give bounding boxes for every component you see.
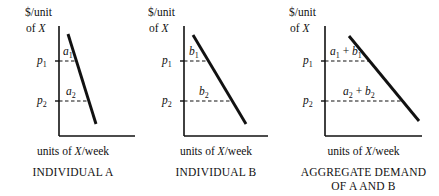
demand-curve-figure: $/unit of X p1 p2 a1 xyxy=(0,0,439,196)
panel-individual-a: $/unit of X p1 p2 a1 xyxy=(0,0,146,196)
quantity-label-a2: a2 xyxy=(66,85,76,100)
price-label-p2: p2 xyxy=(37,94,47,109)
price-label-p1: p1 xyxy=(37,54,47,69)
x-axis-label: units of X/week xyxy=(143,145,289,157)
panel-caption-line-2: OF A AND B xyxy=(288,180,439,194)
quantity-label-a1-plus-b1: a1 + b1 xyxy=(330,45,362,60)
panel-aggregate-demand: $/unit of X p1 p2 a1 + b1 a2 + b2 units … xyxy=(288,0,439,196)
panel-caption-individual-a: INDIVIDUAL A xyxy=(0,166,146,180)
price-label-p1: p1 xyxy=(303,54,313,69)
x-axis-label: units of X/week xyxy=(0,145,146,157)
panel-caption-line-1: AGGREGATE DEMAND xyxy=(288,166,439,180)
quantity-label-b1: b1 xyxy=(189,45,199,60)
price-label-p2: p2 xyxy=(162,94,172,109)
quantity-label-a1: a1 xyxy=(63,45,73,60)
x-axis-label: units of X/week xyxy=(288,145,439,157)
quantity-label-b2: b2 xyxy=(199,85,209,100)
panel-caption-individual-b: INDIVIDUAL B xyxy=(143,166,289,180)
demand-curve-b xyxy=(193,35,246,124)
price-label-p2: p2 xyxy=(303,94,313,109)
quantity-label-a2-plus-b2: a2 + b2 xyxy=(343,85,375,100)
price-label-p1: p1 xyxy=(162,54,172,69)
panel-caption-aggregate-demand: AGGREGATE DEMAND OF A AND B xyxy=(288,166,439,193)
panel-individual-b: $/unit of X p1 p2 b1 b2 units of X/week xyxy=(143,0,289,196)
